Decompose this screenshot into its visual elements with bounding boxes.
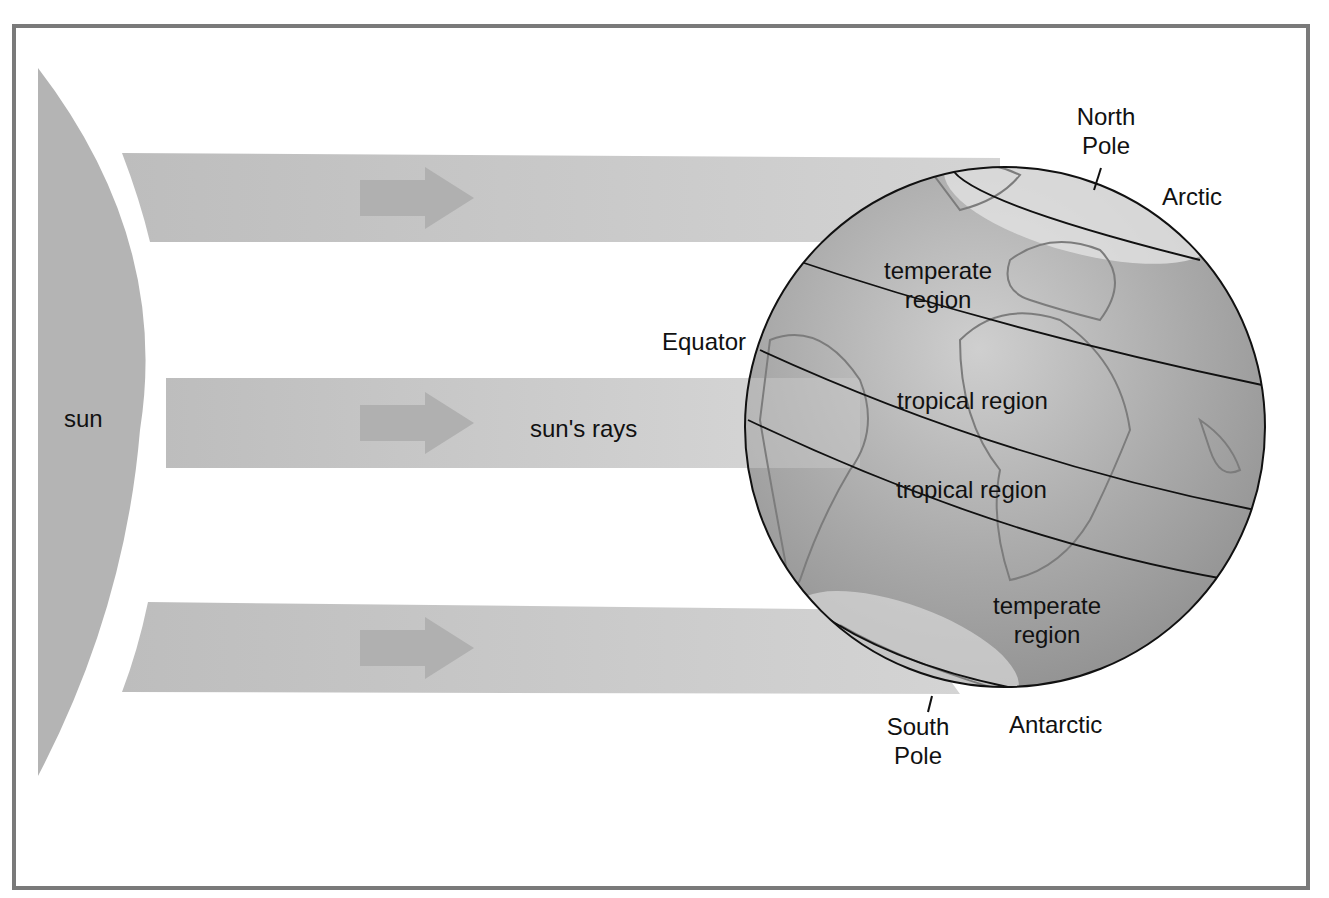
temperate-south-label: temperate region [974, 591, 1120, 649]
tropical-south-label: tropical region [896, 475, 1047, 504]
north-pole-label: North Pole [1066, 102, 1146, 160]
antarctic-label: Antarctic [1009, 710, 1102, 739]
arctic-label: Arctic [1162, 182, 1222, 211]
north-pole-label-line1: North [1066, 102, 1146, 131]
temperate-south-line1: temperate [974, 591, 1120, 620]
tropical-north-label: tropical region [897, 386, 1048, 415]
temperate-north-label: temperate region [866, 256, 1010, 314]
sun-label: sun [64, 404, 103, 433]
north-pole-label-line2: Pole [1066, 131, 1146, 160]
south-pole-label: South Pole [876, 712, 960, 770]
south-pole-label-line2: Pole [876, 741, 960, 770]
temperate-north-line2: region [866, 285, 1010, 314]
south-pole-label-line1: South [876, 712, 960, 741]
middle-ray [166, 378, 766, 468]
south-pole-pointer [928, 696, 932, 712]
temperate-north-line1: temperate [866, 256, 1010, 285]
rays-label: sun's rays [530, 414, 637, 443]
temperate-south-line2: region [974, 620, 1120, 649]
equator-label: Equator [662, 327, 746, 356]
